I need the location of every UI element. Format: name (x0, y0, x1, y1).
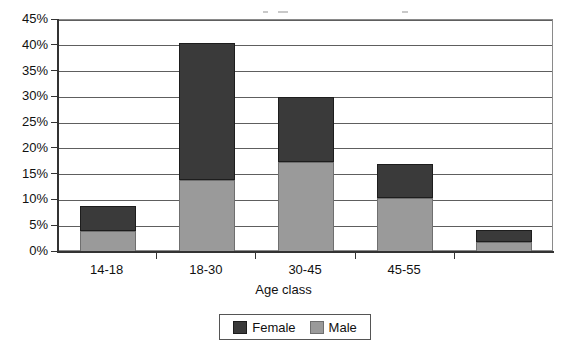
y-axis-label: 30% (0, 89, 48, 102)
bar-segment-female[interactable] (377, 164, 433, 198)
y-axis-tick (51, 225, 58, 226)
y-axis-tick (51, 199, 58, 200)
y-axis-tick (51, 70, 58, 71)
x-axis-tick (255, 252, 256, 259)
bar-segment-male[interactable] (278, 162, 334, 252)
legend-item-female: Female (233, 321, 295, 334)
x-axis-label: 18-30 (156, 262, 256, 277)
y-axis-tick (51, 122, 58, 123)
x-axis-tick (355, 252, 356, 259)
x-axis-tick (156, 252, 157, 259)
bar-stack[interactable] (179, 43, 235, 252)
y-axis-tick (51, 173, 58, 174)
bar-segment-male[interactable] (80, 231, 136, 252)
gridline (58, 20, 552, 21)
gridline (58, 45, 552, 46)
legend-item-male: Male (310, 321, 357, 334)
y-axis-tick (51, 147, 58, 148)
x-axis-line (57, 251, 554, 253)
y-axis-label: 25% (0, 115, 48, 128)
y-axis-line (57, 19, 59, 252)
x-axis-label: 45-55 (354, 262, 454, 277)
gridline (58, 71, 552, 72)
legend-swatch-male-icon (310, 321, 324, 334)
chart-legend: Female Male (219, 314, 371, 340)
bar-stack[interactable] (476, 230, 532, 252)
bar-segment-female[interactable] (278, 97, 334, 161)
bar-segment-female[interactable] (80, 206, 136, 232)
y-axis-label: 0% (0, 244, 48, 257)
legend-swatch-female-icon (233, 321, 247, 334)
x-axis-label: 30-45 (255, 262, 355, 277)
y-axis-tick (51, 251, 58, 252)
bar-stack[interactable] (80, 206, 136, 252)
plot-area (57, 19, 553, 251)
y-axis-tick (51, 44, 58, 45)
bar-segment-male[interactable] (377, 198, 433, 252)
y-axis-label: 35% (0, 64, 48, 77)
scan-artifact (263, 11, 268, 13)
y-axis-label: 10% (0, 192, 48, 205)
stacked-bar-chart: Age class Female Male 0%5%10%15%20%25%30… (0, 0, 567, 350)
scan-artifact (402, 11, 408, 13)
x-axis-title: Age class (0, 282, 567, 297)
y-axis-label: 15% (0, 167, 48, 180)
bar-stack[interactable] (278, 97, 334, 252)
x-axis-label: 14-18 (57, 262, 157, 277)
y-axis-tick (51, 19, 58, 20)
legend-label-female: Female (252, 321, 295, 334)
x-axis-tick (454, 252, 455, 259)
y-axis-label: 5% (0, 218, 48, 231)
legend-label-male: Male (329, 321, 357, 334)
bar-stack[interactable] (377, 164, 433, 252)
y-axis-label: 20% (0, 141, 48, 154)
bar-segment-female[interactable] (476, 230, 532, 242)
y-axis-tick (51, 96, 58, 97)
bar-segment-female[interactable] (179, 43, 235, 180)
bar-segment-male[interactable] (179, 180, 235, 252)
y-axis-label: 45% (0, 12, 48, 25)
scan-artifact (278, 11, 288, 13)
y-axis-label: 40% (0, 38, 48, 51)
